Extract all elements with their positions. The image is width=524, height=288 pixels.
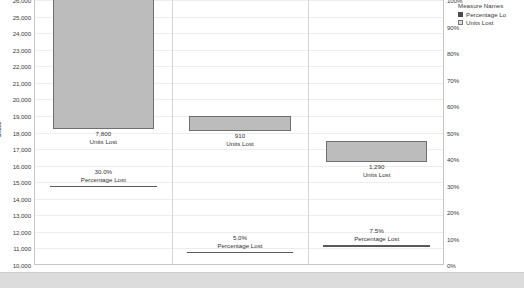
bar-caption: Units Lost [363, 171, 391, 179]
y-axis-left-tick: 22,000 [13, 63, 31, 70]
gridline [35, 199, 443, 200]
panel-divider [308, 0, 309, 264]
reference-line-value: 7.5% [354, 227, 399, 235]
y-axis-left-tick: 23,000 [13, 46, 31, 53]
plot-area: 7,800Units Lost30.0%Percentage Lost910Un… [34, 0, 444, 265]
legend-item-label: Percentage Lo [466, 11, 506, 18]
legend-item-units-lost[interactable]: Units Lost [458, 19, 524, 26]
y-axis-left-tick: 19,000 [13, 112, 31, 119]
y-axis-left-tick: 17,000 [13, 146, 31, 153]
bar-label-efficiency: 910Units Lost [226, 132, 254, 148]
reference-line-caption: Percentage Lost [81, 176, 126, 184]
y-axis-right-tick: 80% [447, 50, 459, 57]
bar-value: 7,800 [90, 130, 118, 138]
footer-bar [0, 272, 524, 288]
y-axis-left-tick: 14,000 [13, 195, 31, 202]
y-axis-right-tick: 10% [447, 235, 459, 242]
y-axis-right-tick: 30% [447, 182, 459, 189]
y-axis-left: Units 26,00025,00024,00023,00022,00021,0… [0, 0, 34, 265]
bar-value: 1,290 [363, 163, 391, 171]
y-axis-left-tick: 16,000 [13, 162, 31, 169]
legend: Measure Names Percentage Lo Units Lost [458, 2, 524, 27]
y-axis-left-tick: 20,000 [13, 96, 31, 103]
bar-label-quality: 1,290Units Lost [363, 163, 391, 179]
y-axis-left-tick: 12,000 [13, 228, 31, 235]
reference-line-percentage-lost-efficiency[interactable] [187, 252, 294, 254]
panel-divider [172, 0, 173, 264]
y-axis-right-tick: 20% [447, 209, 459, 216]
reference-line-caption: Percentage Lost [217, 242, 262, 250]
reference-line-value: 5.0% [217, 234, 262, 242]
y-axis-left-tick: 25,000 [13, 13, 31, 20]
y-axis-left-tick: 11,000 [13, 245, 31, 252]
y-axis-right-tick: 0% [447, 262, 456, 269]
y-axis-right-tick: 70% [447, 76, 459, 83]
reference-line-label-utilization: 30.0%Percentage Lost [81, 168, 126, 184]
legend-swatch-icon [458, 20, 463, 25]
y-axis-left-title: Units [0, 122, 2, 137]
bar-caption: Units Lost [90, 138, 118, 146]
reference-line-label-efficiency: 5.0%Percentage Lost [217, 234, 262, 250]
reference-line-percentage-lost-quality[interactable] [323, 245, 430, 247]
y-axis-left-tick: 21,000 [13, 79, 31, 86]
y-axis-right-tick: 50% [447, 129, 459, 136]
gridline [35, 215, 443, 216]
reference-line-value: 30.0% [81, 168, 126, 176]
legend-item-percentage-lost[interactable]: Percentage Lo [458, 11, 524, 18]
bar-units-lost-efficiency[interactable] [189, 116, 290, 131]
bar-units-lost-utilization[interactable] [53, 0, 154, 129]
legend-item-label: Units Lost [466, 19, 494, 26]
y-axis-right-tick: 60% [447, 103, 459, 110]
reference-line-percentage-lost-utilization[interactable] [50, 186, 157, 188]
y-axis-left-tick: 10,000 [13, 262, 31, 269]
y-axis-left-tick: 13,000 [13, 212, 31, 219]
y-axis-left-tick: 24,000 [13, 30, 31, 37]
bar-label-utilization: 7,800Units Lost [90, 130, 118, 146]
legend-swatch-icon [458, 12, 463, 17]
bar-units-lost-quality[interactable] [326, 141, 427, 162]
y-axis-left-tick: 26,000 [13, 0, 31, 4]
y-axis-left-tick: 18,000 [13, 129, 31, 136]
reference-line-label-quality: 7.5%Percentage Lost [354, 227, 399, 243]
bar-value: 910 [226, 132, 254, 140]
y-axis-right: 100%90%80%70%60%50%40%30%20%10%0% [447, 0, 477, 265]
y-axis-left-tick: 15,000 [13, 179, 31, 186]
reference-line-caption: Percentage Lost [354, 235, 399, 243]
legend-title: Measure Names [458, 2, 524, 9]
y-axis-right-tick: 40% [447, 156, 459, 163]
bar-caption: Units Lost [226, 140, 254, 148]
